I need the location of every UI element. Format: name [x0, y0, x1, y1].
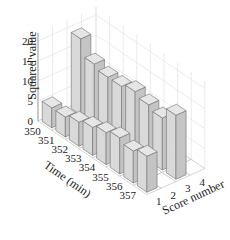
bar-front-face [71, 32, 81, 114]
bar-front-face [85, 58, 95, 124]
z-axis-label: Squared value [25, 26, 40, 106]
bar-side-face [176, 111, 186, 180]
bar-front-face [166, 109, 176, 179]
bar-side-face [147, 152, 157, 193]
x-tick-label: 357 [120, 189, 137, 201]
bar-front-face [110, 131, 120, 173]
bar-front-face [137, 150, 147, 192]
